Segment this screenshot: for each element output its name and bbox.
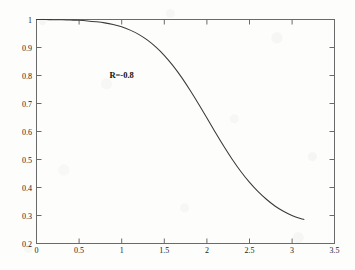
x-tick-label: 3	[290, 246, 294, 255]
y-tick-label: 0.8	[22, 72, 32, 81]
y-tick-label: 0.7	[22, 100, 32, 109]
x-tick-label: 2.5	[245, 246, 255, 255]
x-tick-label: 0.5	[74, 246, 84, 255]
y-axis-ticks	[37, 20, 335, 244]
y-tick-label: 0.3	[22, 212, 32, 221]
x-tick-label: 2	[205, 246, 209, 255]
x-axis-tick-labels: 0 0.5 1 1.5 2 2.5 3 3.5	[35, 246, 340, 255]
x-axis-ticks	[37, 20, 335, 244]
x-tick-label: 1	[120, 246, 124, 255]
data-series-line	[37, 19, 304, 219]
line-chart: 0 0.5 1 1.5 2 2.5 3 3.5 0.2 0.3 0.4 0.5 …	[0, 0, 355, 270]
annotation-label: R=-0.8	[109, 70, 133, 80]
axes-frame	[37, 20, 335, 244]
y-tick-label: 0.9	[22, 44, 32, 53]
x-tick-label: 0	[35, 246, 39, 255]
y-tick-label: 1	[28, 16, 32, 25]
x-tick-label: 1.5	[159, 246, 169, 255]
figure-canvas: 0 0.5 1 1.5 2 2.5 3 3.5 0.2 0.3 0.4 0.5 …	[0, 0, 355, 270]
y-tick-label: 0.2	[22, 240, 32, 249]
y-tick-label: 0.5	[22, 156, 32, 165]
x-tick-label: 3.5	[330, 246, 340, 255]
y-tick-label: 0.6	[22, 128, 32, 137]
y-axis-tick-labels: 0.2 0.3 0.4 0.5 0.6 0.7 0.8 0.9 1	[22, 16, 32, 249]
y-tick-label: 0.4	[22, 184, 32, 193]
